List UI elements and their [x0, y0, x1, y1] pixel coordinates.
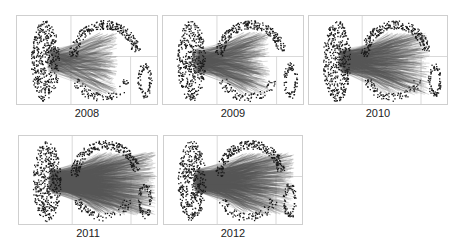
year-label-2011: 2011	[18, 227, 158, 239]
graph-plot-2010	[308, 15, 448, 105]
panel-2012: 2012	[163, 135, 303, 243]
panel-2009: 2009	[162, 15, 304, 123]
year-label-2010: 2010	[308, 107, 448, 119]
panel-2008: 2008	[16, 15, 158, 123]
graph-plot-2008	[16, 15, 158, 105]
year-label-2012: 2012	[163, 227, 303, 239]
graph-plot-2011	[18, 135, 158, 225]
graph-plot-2012	[163, 135, 303, 225]
graph-plot-2009	[162, 15, 304, 105]
panel-2010: 2010	[308, 15, 448, 123]
year-label-2009: 2009	[162, 107, 304, 119]
year-label-2008: 2008	[16, 107, 158, 119]
panel-2011: 2011	[18, 135, 158, 243]
